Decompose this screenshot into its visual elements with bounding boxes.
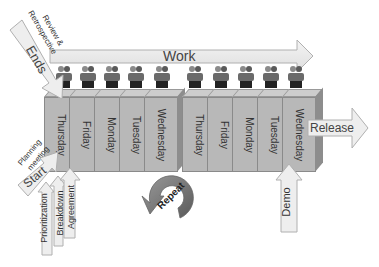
repeat-icon <box>0 0 379 267</box>
